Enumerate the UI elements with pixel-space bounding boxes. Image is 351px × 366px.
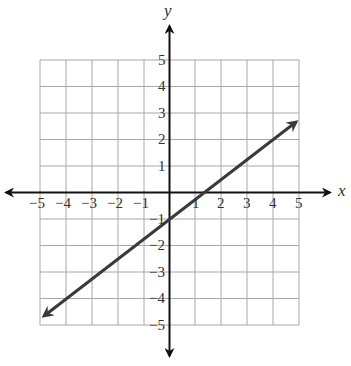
x-tick: −4	[55, 196, 71, 211]
x-tick: −1	[133, 196, 149, 211]
x-tick: −3	[81, 196, 97, 211]
y-tick: −2	[149, 238, 165, 253]
x-tick: 4	[269, 196, 277, 211]
x-tick: 2	[217, 196, 225, 211]
x-tick: 1	[192, 196, 200, 211]
y-tick: −4	[149, 291, 165, 306]
x-tick: −2	[107, 196, 123, 211]
y-tick: 4	[158, 79, 166, 94]
coordinate-plane	[0, 0, 351, 366]
x-tick: −5	[29, 196, 45, 211]
x-tick: 5	[295, 196, 303, 211]
y-tick: 5	[158, 53, 166, 68]
y-tick: −1	[149, 212, 165, 227]
plotted-line	[170, 122, 296, 219]
y-tick: 1	[158, 159, 166, 174]
y-axis-label: y	[164, 2, 172, 19]
x-axis-label: x	[338, 182, 346, 199]
x-tick: 3	[243, 196, 251, 211]
y-tick: 3	[158, 106, 166, 121]
y-tick: −3	[149, 265, 165, 280]
y-tick: 2	[158, 132, 166, 147]
y-tick: −5	[149, 318, 165, 333]
